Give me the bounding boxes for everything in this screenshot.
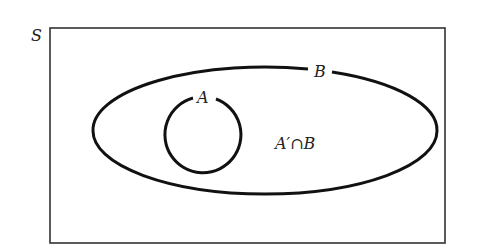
universal-set-frame [50, 28, 445, 243]
region-label-a-complement-intersect-b: A′∩B [273, 134, 316, 153]
set-a-circle [165, 98, 241, 173]
set-a-label: A [195, 88, 209, 107]
set-b-ellipse [93, 67, 437, 194]
universal-set-label: S [31, 26, 42, 45]
set-b-label: B [313, 62, 326, 81]
venn-diagram: S B A A′∩B [0, 0, 481, 250]
